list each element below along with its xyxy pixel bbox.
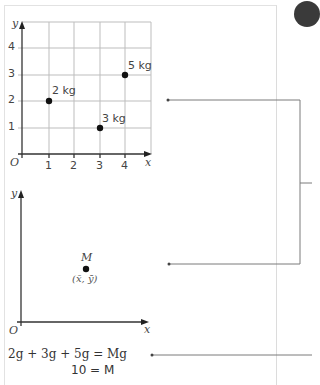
- connector-dot-2: [168, 263, 171, 266]
- connector-dot-3: [151, 354, 154, 357]
- connector-dot-1: [167, 99, 170, 102]
